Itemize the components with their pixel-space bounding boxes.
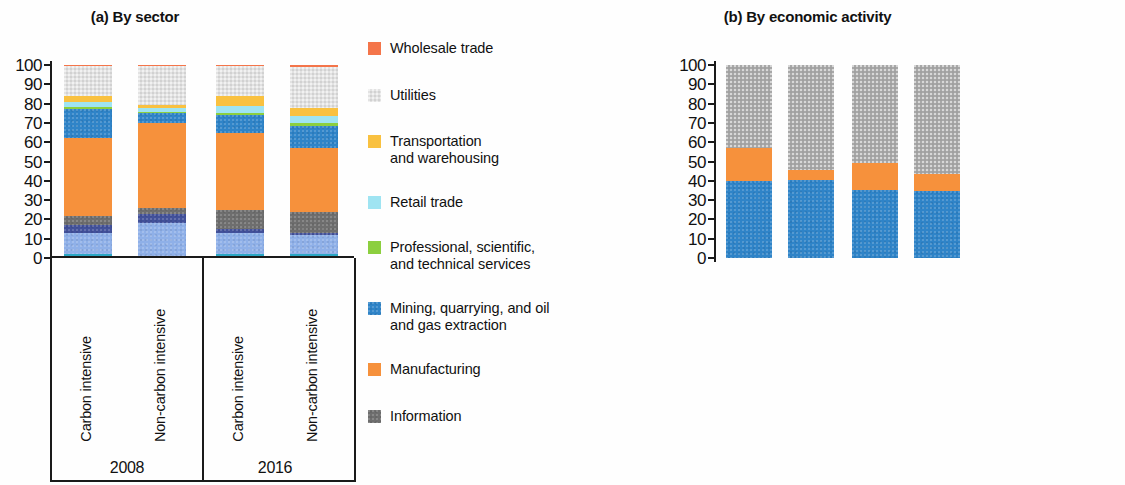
bar-segment xyxy=(138,113,186,123)
bar-segment xyxy=(914,174,960,191)
y-tick-label-a-0: 0 xyxy=(33,250,42,267)
bar-segment xyxy=(64,65,112,66)
y-tick-mark-a-30 xyxy=(44,199,50,201)
bar-segment xyxy=(138,66,186,105)
bar-segment xyxy=(64,66,112,96)
bar-segment xyxy=(216,113,264,115)
y-tick-mark-a-50 xyxy=(44,161,50,163)
legend-a-item[interactable]: Manufacturing xyxy=(368,361,481,378)
legend-a-item[interactable]: Wholesale trade xyxy=(368,40,493,57)
y-tick-mark-a-60 xyxy=(44,141,50,143)
legend-a-item[interactable]: Transportation and warehousing xyxy=(368,133,499,167)
stacked-bar xyxy=(914,65,960,258)
y-tick-mark-a-80 xyxy=(44,103,50,105)
y-tick-label-a-20: 20 xyxy=(24,211,42,228)
y-tick-mark-b-80 xyxy=(708,103,714,105)
panel-by-sector: (a) By sector 1009080706050403020100 Car… xyxy=(0,0,600,485)
y-tick-mark-a-40 xyxy=(44,180,50,182)
legend-swatch-icon xyxy=(368,410,381,423)
legend-a-label: Retail trade xyxy=(390,194,463,211)
y-tick-mark-b-60 xyxy=(708,141,714,143)
stacked-bar xyxy=(852,65,898,258)
bar-segment xyxy=(138,105,186,109)
bar-segment xyxy=(216,229,264,233)
y-tick-mark-a-20 xyxy=(44,218,50,220)
bar-segment xyxy=(216,233,264,254)
legend-a-label: Mining, quarrying, and oil and gas extra… xyxy=(390,300,549,334)
y-tick-label-b-90: 90 xyxy=(688,76,706,93)
y-tick-label-b-0: 0 xyxy=(697,250,706,267)
year-label-2016-a: 2016 xyxy=(220,459,330,477)
bar-segment xyxy=(852,163,898,190)
y-tick-mark-a-90 xyxy=(44,83,50,85)
x-label-nci-2016: Non-carbon intensive xyxy=(304,309,320,442)
bar-segment xyxy=(914,191,960,258)
x-label-ci-2016: Carbon intensive xyxy=(230,336,246,442)
legend-a-item[interactable]: Retail trade xyxy=(368,194,463,211)
bar-segment xyxy=(64,107,112,109)
bar-segment xyxy=(216,115,264,132)
y-tick-mark-b-30 xyxy=(708,199,714,201)
y-tick-mark-a-10 xyxy=(44,238,50,240)
y-tick-mark-b-40 xyxy=(708,180,714,182)
stacked-bar xyxy=(290,65,338,258)
legend-swatch-icon xyxy=(368,89,381,102)
y-tick-mark-b-70 xyxy=(708,122,714,124)
bar-segment xyxy=(138,123,186,208)
panel-b-title: (b) By economic activity xyxy=(545,8,1070,25)
bar-segment xyxy=(726,181,772,258)
y-tick-label-a-10: 10 xyxy=(24,230,42,247)
legend-a-item[interactable]: Mining, quarrying, and oil and gas extra… xyxy=(368,300,549,334)
panel-by-economic-activity: (b) By economic activity 100908070605040… xyxy=(600,0,1125,485)
y-tick-label-a-50: 50 xyxy=(24,153,42,170)
y-tick-label-a-60: 60 xyxy=(24,134,42,151)
bar-segment xyxy=(726,65,772,148)
bar-segment xyxy=(290,67,338,108)
panel-a-title: (a) By sector xyxy=(0,8,435,25)
bar-segment xyxy=(290,65,338,67)
bar-segment xyxy=(290,233,338,235)
y-tick-label-a-70: 70 xyxy=(24,114,42,131)
y-tick-label-a-90: 90 xyxy=(24,76,42,93)
legend-a-item[interactable]: Utilities xyxy=(368,87,436,104)
y-axis-a xyxy=(50,61,52,262)
y-tick-mark-b-10 xyxy=(708,238,714,240)
bar-segment xyxy=(138,65,186,66)
bar-segment xyxy=(64,109,112,138)
bar-segment xyxy=(788,65,834,170)
x-label-nci-2008: Non-carbon intensive xyxy=(152,309,168,442)
bar-segment xyxy=(788,180,834,258)
bar-segment xyxy=(64,96,112,102)
x-label-ci-2008: Carbon intensive xyxy=(78,336,94,442)
stacked-bar xyxy=(216,65,264,258)
legend-a-label: Wholesale trade xyxy=(390,40,493,57)
y-tick-mark-b-20 xyxy=(708,218,714,220)
y-tick-mark-b-50 xyxy=(708,161,714,163)
legend-swatch-icon xyxy=(368,42,381,55)
legend-swatch-icon xyxy=(368,302,381,315)
bar-segment xyxy=(216,106,264,114)
bar-segment xyxy=(138,112,186,113)
y-tick-mark-a-70 xyxy=(44,122,50,124)
legend-a-item[interactable]: Information xyxy=(368,408,461,425)
legend-a-label: Information xyxy=(390,408,461,425)
plot-area-by-economic-activity: 1009080706050403020100 xyxy=(720,65,960,258)
bar-segment xyxy=(788,170,834,180)
bar-segment xyxy=(290,212,338,233)
bar-segment xyxy=(290,126,338,148)
y-tick-label-b-70: 70 xyxy=(688,114,706,131)
bar-segment xyxy=(290,123,338,126)
bar-segment xyxy=(138,223,186,256)
y-tick-label-b-80: 80 xyxy=(688,95,706,112)
y-axis-b xyxy=(714,61,716,262)
plot-area-by-sector: 1009080706050403020100 xyxy=(56,65,346,258)
bar-segment xyxy=(726,148,772,181)
y-tick-label-b-10: 10 xyxy=(688,230,706,247)
legend-swatch-icon xyxy=(368,196,381,209)
bar-segment xyxy=(138,108,186,112)
y-tick-label-b-20: 20 xyxy=(688,211,706,228)
bar-segment xyxy=(64,102,112,108)
y-tick-label-b-40: 40 xyxy=(688,172,706,189)
group-divider-a xyxy=(202,258,204,480)
legend-a-item[interactable]: Professional, scientific, and technical … xyxy=(368,239,535,273)
